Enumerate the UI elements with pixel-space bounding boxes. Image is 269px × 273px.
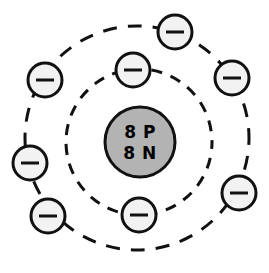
nucleus-group: 8 P8 N — [105, 107, 175, 177]
nucleus-label-line1: 8 P — [124, 122, 156, 142]
outer-electron-upper-right — [215, 61, 249, 95]
outer-electron-lower-left — [31, 199, 65, 233]
outer-electron-top — [158, 15, 192, 49]
atom-diagram-canvas: 8 P8 N — [0, 0, 269, 273]
outer-electron-upper-left — [28, 63, 62, 97]
inner-electron-bottom — [122, 198, 156, 232]
inner-electron-top — [116, 53, 150, 87]
nucleus-label-line2: 8 N — [123, 143, 156, 163]
nucleus-circle — [105, 107, 175, 177]
bohr-atom-diagram: 8 P8 N — [0, 0, 269, 273]
outer-electron-right — [222, 176, 256, 210]
outer-electron-left — [13, 146, 47, 180]
